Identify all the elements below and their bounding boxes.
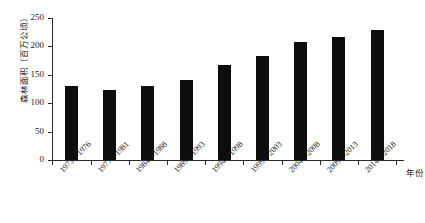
y-tick-mark bbox=[48, 132, 52, 133]
y-tick-mark bbox=[48, 46, 52, 47]
bar bbox=[371, 30, 384, 160]
y-axis-line bbox=[52, 18, 53, 161]
y-tick-mark bbox=[48, 75, 52, 76]
x-tick-mark bbox=[282, 161, 283, 165]
y-tick-mark bbox=[48, 103, 52, 104]
y-tick-mark bbox=[48, 160, 52, 161]
bar bbox=[332, 37, 345, 160]
bar bbox=[218, 65, 231, 160]
x-tick-mark bbox=[167, 161, 168, 165]
x-tick-mark bbox=[396, 161, 397, 165]
bar bbox=[294, 42, 307, 160]
x-tick-mark bbox=[320, 161, 321, 165]
y-tick-label: 250 bbox=[18, 13, 44, 22]
bar bbox=[256, 56, 269, 160]
x-tick-mark bbox=[129, 161, 130, 165]
y-tick-mark bbox=[48, 18, 52, 19]
x-tick-mark bbox=[205, 161, 206, 165]
x-axis-title: 年份 bbox=[406, 166, 424, 178]
y-tick-label: 0 bbox=[18, 155, 44, 164]
y-tick-label: 50 bbox=[18, 127, 44, 136]
y-tick-label: 150 bbox=[18, 70, 44, 79]
x-tick-mark bbox=[91, 161, 92, 165]
x-tick-mark bbox=[358, 161, 359, 165]
x-tick-mark bbox=[243, 161, 244, 165]
x-tick-mark bbox=[52, 161, 53, 165]
bar-chart: 森林面积（百万公顷） 050100150200250 1973—19761977… bbox=[0, 0, 425, 223]
y-tick-label: 100 bbox=[18, 98, 44, 107]
y-tick-label: 200 bbox=[18, 41, 44, 50]
